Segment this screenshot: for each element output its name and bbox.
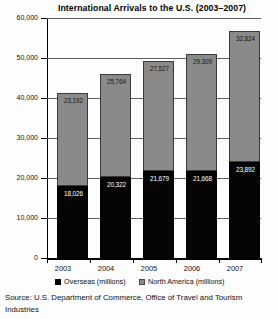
bar-label-overseas-2006: 21,668: [187, 175, 218, 182]
x-axis-label-2007: 2007: [213, 264, 257, 273]
chart-legend: Overseas (millions) North America (milli…: [0, 277, 279, 286]
bar-segment-north-america-2005[interactable]: 27,527: [143, 61, 174, 171]
y-tick-label-10000: 10,000: [17, 214, 38, 221]
y-tick-label-0: 0: [34, 254, 38, 261]
bar-segment-overseas-2004[interactable]: 20,322: [100, 177, 131, 258]
x-tick-4: [219, 258, 220, 263]
x-axis-line: [47, 258, 262, 260]
legend-label-overseas: Overseas (millions): [64, 277, 126, 286]
y-tick-label-60000: 60,000: [17, 14, 38, 21]
bar-label-overseas-2004: 20,322: [101, 181, 132, 188]
chart-container: International Arrivals to the U.S. (2003…: [0, 0, 279, 319]
bar-label-north-america-2005: 27,527: [144, 65, 175, 72]
bar-segment-north-america-2006[interactable]: 29,309: [186, 54, 217, 171]
x-tick-3: [176, 258, 177, 263]
x-axis-label-2005: 2005: [127, 264, 171, 273]
bar-segment-north-america-2007[interactable]: 32,824: [229, 31, 260, 162]
y-tick-label-30000: 30,000: [17, 134, 38, 141]
bar-segment-north-america-2004[interactable]: 25,764: [100, 74, 131, 177]
bar-label-overseas-2003: 18,026: [58, 190, 89, 197]
chart-source-note: Source: U.S. Department of Commerce, Off…: [5, 292, 275, 315]
x-axis-label-2006: 2006: [170, 264, 214, 273]
x-axis-label-2004: 2004: [84, 264, 128, 273]
bar-segment-overseas-2006[interactable]: 21,668: [186, 171, 217, 258]
y-tick-label-20000: 20,000: [17, 174, 38, 181]
bar-label-north-america-2007: 32,824: [230, 35, 261, 42]
bar-label-overseas-2007: 23,892: [230, 166, 261, 173]
bar-label-north-america-2003: 23,192: [58, 97, 89, 104]
legend-swatch-overseas-icon: [55, 279, 61, 285]
y-tick-label-50000: 50,000: [17, 54, 38, 61]
y-tick-label-40000: 40,000: [17, 94, 38, 101]
bar-segment-north-america-2003[interactable]: 23,192: [57, 93, 88, 186]
x-axis-label-2003: 2003: [41, 264, 85, 273]
x-tick-1: [90, 258, 91, 263]
legend-item-overseas[interactable]: Overseas (millions): [55, 277, 126, 286]
bar-label-overseas-2005: 21,679: [144, 175, 175, 182]
chart-title: International Arrivals to the U.S. (2003…: [28, 3, 276, 14]
bar-segment-overseas-2005[interactable]: 21,679: [143, 171, 174, 258]
bar-segment-overseas-2003[interactable]: 18,026: [57, 186, 88, 258]
bar-series-group: 18,026 23,192 20,322 25,764 21,679 27,52…: [47, 18, 261, 258]
legend-label-north-america: North America (millions): [148, 277, 224, 286]
x-tick-2: [133, 258, 134, 263]
x-tick-0: [47, 258, 48, 263]
bar-label-north-america-2006: 29,309: [187, 58, 218, 65]
legend-swatch-north-america-icon: [139, 279, 145, 285]
legend-item-north-america[interactable]: North America (millions): [139, 277, 225, 286]
bar-segment-overseas-2007[interactable]: 23,892: [229, 162, 260, 258]
bar-label-north-america-2004: 25,764: [101, 78, 132, 85]
x-tick-5: [261, 258, 262, 263]
